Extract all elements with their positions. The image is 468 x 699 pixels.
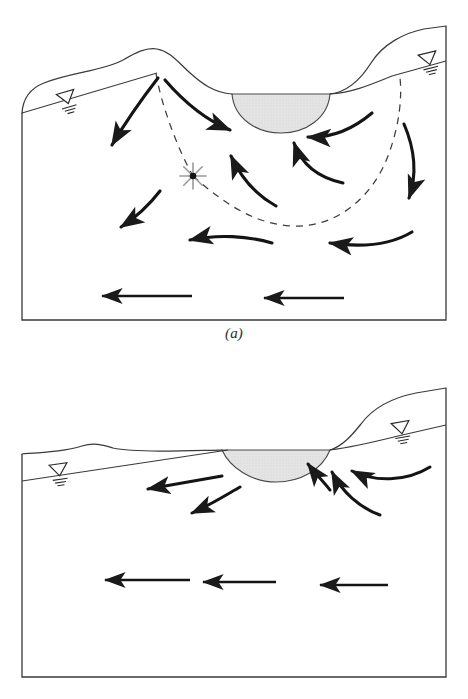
lake-water-body-a (232, 94, 330, 133)
section-box-b (22, 388, 446, 677)
flow-arrow-a5 (294, 143, 343, 183)
water-table-symbol-right-b (391, 420, 412, 444)
flow-arrow-b3 (308, 464, 330, 490)
flow-arrow-a7 (404, 124, 414, 198)
flow-arrow-b5 (352, 467, 430, 479)
flow-arrow-a2 (165, 80, 230, 130)
stagnation-point-star-a (180, 163, 206, 189)
lake-water-body-b (222, 450, 330, 482)
flow-arrow-b2 (192, 487, 240, 513)
section-box-a (22, 26, 446, 320)
land-surface-profile-b (22, 388, 446, 454)
flow-arrow-b1 (148, 476, 222, 489)
flow-arrow-a4 (231, 156, 276, 206)
flow-arrow-a8 (330, 232, 412, 245)
flow-arrow-a3 (121, 191, 160, 227)
panel-a-caption: (a) (0, 325, 468, 342)
flow-arrow-a1 (112, 78, 158, 145)
flow-arrow-a9 (190, 236, 272, 243)
panel-b: (b) (0, 350, 468, 699)
regional-flow-arrows-a (102, 296, 344, 298)
panel-a-drawing (0, 0, 468, 350)
panel-a: (a) (0, 0, 468, 350)
regional-flow-arrows-b (105, 580, 388, 585)
figure-root: (a) (0, 0, 468, 699)
panel-b-drawing-main (0, 350, 468, 699)
